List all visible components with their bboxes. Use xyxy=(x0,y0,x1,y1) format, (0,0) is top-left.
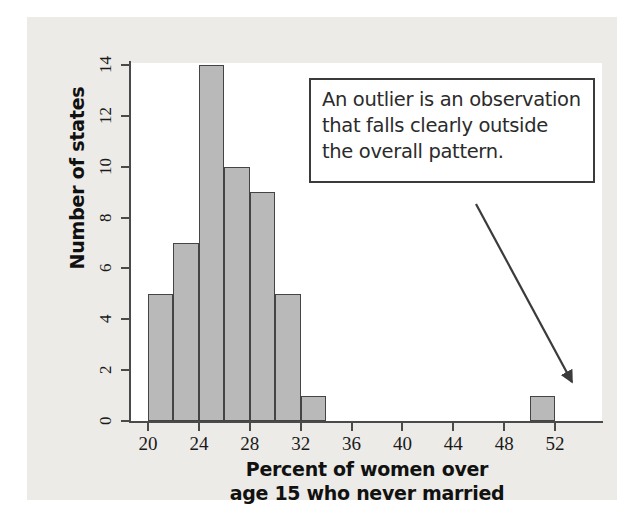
x-axis-tick xyxy=(351,422,353,431)
x-axis-tick-label: 40 xyxy=(382,434,422,455)
x-axis-tick-label: 24 xyxy=(179,434,219,455)
x-axis-tick-label: 28 xyxy=(230,434,270,455)
y-axis-tick-label: 14 xyxy=(93,51,117,79)
y-axis-tick-label: 12 xyxy=(93,102,117,130)
outlier-callout-box: An outlier is an observation that falls … xyxy=(309,78,595,183)
histogram-bar xyxy=(199,65,224,421)
x-axis-tick-label: 20 xyxy=(128,434,168,455)
y-axis-tick-label: 8 xyxy=(93,204,117,232)
x-axis-title-line-1: Percent of women over xyxy=(147,458,587,482)
histogram-bar xyxy=(224,167,249,421)
callout-line-2: that falls clearly outside xyxy=(322,113,583,139)
x-axis-tick-label: 52 xyxy=(535,434,575,455)
x-axis-tick xyxy=(147,422,149,431)
x-axis-title-line-2: age 15 who never married xyxy=(147,482,587,506)
y-axis-tick-label: 10 xyxy=(93,153,117,181)
y-axis-tick-label: 0 xyxy=(93,407,117,435)
x-axis-tick xyxy=(503,422,505,431)
y-axis-tick xyxy=(121,369,130,371)
x-axis-tick xyxy=(401,422,403,431)
x-axis-tick-label: 44 xyxy=(433,434,473,455)
y-axis-tick xyxy=(121,267,130,269)
x-axis-tick-label: 36 xyxy=(332,434,372,455)
y-axis-tick-label: 4 xyxy=(93,305,117,333)
x-axis-title: Percent of women over age 15 who never m… xyxy=(147,458,587,506)
x-axis-line xyxy=(129,421,603,423)
y-axis-tick-label: 6 xyxy=(93,254,117,282)
histogram-bar xyxy=(530,396,555,421)
y-axis-tick xyxy=(121,420,130,422)
figure-root: 02468101214 202428323640444852 Number of… xyxy=(0,0,642,518)
histogram-bar xyxy=(275,294,300,421)
x-axis-tick xyxy=(452,422,454,431)
x-axis-tick-label: 48 xyxy=(484,434,524,455)
x-axis-tick xyxy=(249,422,251,431)
histogram-bar xyxy=(148,294,173,421)
y-axis-tick xyxy=(121,166,130,168)
histogram-bar xyxy=(173,243,198,421)
y-axis-tick xyxy=(121,217,130,219)
callout-line-1: An outlier is an observation xyxy=(322,87,583,113)
histogram-bar xyxy=(301,396,326,421)
outlier-callout-text: An outlier is an observation that falls … xyxy=(322,87,583,165)
y-axis-tick xyxy=(121,318,130,320)
histogram-bar xyxy=(250,192,275,421)
y-axis-tick xyxy=(121,64,130,66)
x-axis-tick xyxy=(300,422,302,431)
x-axis-tick xyxy=(554,422,556,431)
y-axis-tick-label: 2 xyxy=(93,356,117,384)
y-axis-tick xyxy=(121,115,130,117)
x-axis-tick xyxy=(198,422,200,431)
y-axis-title: Number of states xyxy=(66,73,88,283)
page-surface: 02468101214 202428323640444852 Number of… xyxy=(27,17,617,500)
x-axis-tick-label: 32 xyxy=(281,434,321,455)
callout-line-3: the overall pattern. xyxy=(322,139,583,165)
